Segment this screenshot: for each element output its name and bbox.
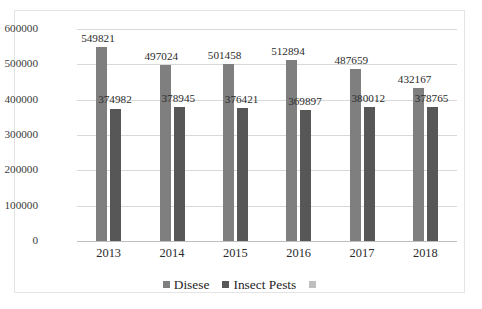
- y-axis-tick-label: 0: [0, 235, 38, 246]
- bar[interactable]: [110, 109, 121, 241]
- y-axis-tick-label: 300000: [0, 129, 38, 140]
- chart-container: 6000005000004000003000002000001000000 54…: [0, 0, 482, 309]
- chart-frame: 6000005000004000003000002000001000000 54…: [14, 10, 465, 293]
- bar-value-label: 369897: [288, 96, 322, 107]
- bar-value-label: 374982: [98, 94, 132, 105]
- bar-group: 432167378765: [413, 29, 438, 241]
- gridline: [77, 29, 457, 30]
- bar-value-label: 380012: [352, 93, 386, 104]
- legend-item[interactable]: Insect Pests: [222, 278, 296, 291]
- plot-area: 5498213749824970243789455014583764215128…: [77, 29, 457, 241]
- y-axis-tick-label: 200000: [0, 164, 38, 175]
- y-axis-tick-label: 500000: [0, 58, 38, 69]
- bar-group: 487659380012: [350, 29, 375, 241]
- legend-item[interactable]: Disese: [163, 278, 210, 291]
- bar-value-label: 501458: [208, 50, 242, 61]
- legend-swatch-icon: [163, 281, 170, 288]
- gridline: [77, 64, 457, 65]
- bar-value-label: 432167: [398, 74, 432, 85]
- bar[interactable]: [286, 60, 297, 241]
- bar-value-label: 487659: [335, 55, 369, 66]
- y-axis-tick-label: 100000: [0, 200, 38, 211]
- bar-group: 549821374982: [96, 29, 121, 241]
- legend-item-label: Insect Pests: [233, 278, 296, 291]
- bar-group: 501458376421: [223, 29, 248, 241]
- bar-group: 497024378945: [160, 29, 185, 241]
- bar-group: 512894369897: [286, 29, 311, 241]
- x-axis-tick-label: 2013: [74, 247, 144, 259]
- bar[interactable]: [174, 107, 185, 241]
- bar-value-label: 512894: [271, 46, 305, 57]
- bar-value-label: 549821: [81, 33, 115, 44]
- bar[interactable]: [96, 47, 107, 241]
- gridline: [77, 170, 457, 171]
- gridline: [77, 206, 457, 207]
- bar[interactable]: [364, 107, 375, 241]
- gridline: [77, 100, 457, 101]
- bar[interactable]: [223, 64, 234, 241]
- x-axis-tick-label: 2015: [200, 247, 270, 259]
- x-axis-tick-label: 2014: [137, 247, 207, 259]
- bar-value-label: 497024: [145, 51, 179, 62]
- x-axis-tick-label: 2016: [264, 247, 334, 259]
- bar[interactable]: [427, 107, 438, 241]
- x-axis-tick-label: 2017: [327, 247, 397, 259]
- bar[interactable]: [413, 88, 424, 241]
- legend-item[interactable]: [309, 281, 316, 288]
- legend-swatch-icon: [222, 281, 229, 288]
- bar-value-label: 376421: [225, 94, 259, 105]
- y-axis-tick-label: 400000: [0, 94, 38, 105]
- legend-item-label: Disese: [174, 278, 210, 291]
- legend-swatch-icon: [309, 281, 316, 288]
- gridline: [77, 135, 457, 136]
- x-axis-tick-label: 2018: [390, 247, 460, 259]
- chart-legend: DiseseInsect Pests: [15, 278, 464, 291]
- bar-value-label: 378765: [415, 93, 449, 104]
- bar-value-label: 378945: [162, 93, 196, 104]
- gridline: [77, 241, 457, 242]
- y-axis-tick-label: 600000: [0, 23, 38, 34]
- bar[interactable]: [237, 108, 248, 241]
- bar[interactable]: [300, 110, 311, 241]
